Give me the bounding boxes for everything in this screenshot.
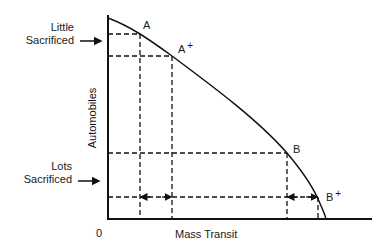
point-bplus-label: B+	[326, 191, 341, 204]
origin-label: 0	[96, 227, 102, 240]
point-aplus-label: A+	[178, 43, 193, 56]
point-name: B	[293, 143, 300, 155]
point-b-label: B	[293, 143, 300, 156]
frontier-curve	[108, 18, 326, 219]
label-line: Little	[0, 21, 74, 34]
label-line: Lots	[0, 160, 72, 173]
label-line: Sacrificed	[0, 34, 74, 47]
lots-sacrificed-label: Lots Sacrificed	[0, 160, 72, 186]
little-sacrificed-label: Little Sacrificed	[0, 21, 74, 47]
point-sup: +	[187, 40, 193, 51]
point-name: A	[143, 19, 150, 31]
point-a-label: A	[143, 19, 150, 32]
point-sup: +	[335, 188, 341, 199]
label-line: Sacrificed	[0, 173, 72, 186]
x-axis-label: Mass Transit	[175, 228, 237, 241]
y-axis-label: Automobiles	[86, 88, 98, 149]
point-name: B	[326, 191, 333, 203]
point-name: A	[178, 43, 185, 55]
